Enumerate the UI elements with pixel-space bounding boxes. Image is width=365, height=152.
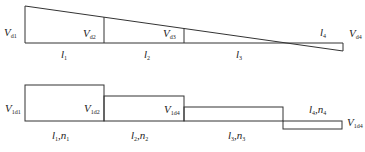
label-v1d4-mid: V1d4 xyxy=(164,104,180,116)
label-v1d2: V1d2 xyxy=(84,103,100,115)
label-l2n2: l2,n2 xyxy=(131,130,148,142)
label-vd2: Vd2 xyxy=(83,28,96,40)
label-l1n1: l1,n1 xyxy=(52,130,69,142)
label-v1d4-end: V1d4 xyxy=(347,117,363,129)
label-vd3: Vd3 xyxy=(163,28,176,40)
label-l3n3: l3,n3 xyxy=(228,130,245,142)
bottom-stepped-diagram xyxy=(25,85,342,129)
label-v1d1: V1d1 xyxy=(5,103,21,115)
label-l2: l2 xyxy=(144,49,150,61)
step-3 xyxy=(184,107,283,121)
label-vd4: Vd4 xyxy=(349,28,362,40)
top-velocity-diagram xyxy=(25,6,343,51)
step-4 xyxy=(283,121,342,129)
label-l3: l3 xyxy=(236,49,242,61)
label-vd1: Vd1 xyxy=(4,27,17,39)
label-l4n4: l4,n4 xyxy=(309,104,326,116)
label-l4: l4 xyxy=(320,27,326,39)
label-l1: l1 xyxy=(61,49,67,61)
